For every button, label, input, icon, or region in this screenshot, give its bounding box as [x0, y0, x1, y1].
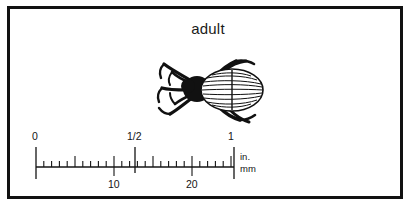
beetle-elytra: [201, 69, 263, 111]
illustration-plate: adult: [0, 0, 416, 211]
mm-ticks: [44, 156, 231, 167]
ruler-graduations: [32, 143, 272, 187]
unit-label-inches: in.: [240, 151, 250, 162]
inch-label-0: 0: [32, 130, 38, 142]
scale-ruler: 0 1/2 1: [32, 130, 272, 192]
beetle-svg: [150, 52, 272, 130]
inch-label-1: 1: [228, 130, 234, 142]
mm-label-20: 20: [186, 178, 198, 190]
unit-label-millimeters: mm: [240, 163, 256, 174]
mm-major-stems: [114, 167, 192, 176]
inch-label-half: 1/2: [127, 130, 142, 142]
mm-label-10: 10: [108, 178, 120, 190]
plate-caption: adult: [0, 20, 416, 37]
beetle-illustration: [150, 52, 272, 130]
